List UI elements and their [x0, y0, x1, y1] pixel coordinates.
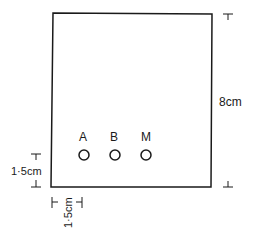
paper-outline: [51, 13, 212, 187]
spot-a-icon: [79, 150, 89, 160]
diagram-canvas: [0, 0, 253, 239]
spot-a-label: A: [79, 131, 87, 143]
margin-label: 1·5cm: [62, 197, 74, 228]
spot-b-icon: [110, 150, 120, 160]
spot-m-icon: [141, 150, 151, 160]
baseline-label: 1·5cm: [11, 165, 42, 177]
height-label: 8cm: [219, 96, 242, 108]
spot-b-label: B: [110, 131, 118, 143]
spot-m-label: M: [141, 131, 151, 143]
